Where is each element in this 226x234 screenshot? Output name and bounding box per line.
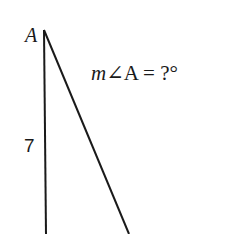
measure-variable: m [91,61,106,85]
vertex-label-a: A [25,25,37,45]
triangle-diagram: A 7 m∠A = ?° [0,0,226,234]
unknown-value: ?° [160,61,178,85]
equals-sign: = [143,61,155,85]
angle-question: m∠A = ?° [91,63,178,84]
vertical-side [44,30,46,234]
angle-name: A [124,61,138,85]
angle-symbol: ∠ [106,61,124,85]
side-length-label: 7 [24,136,35,155]
